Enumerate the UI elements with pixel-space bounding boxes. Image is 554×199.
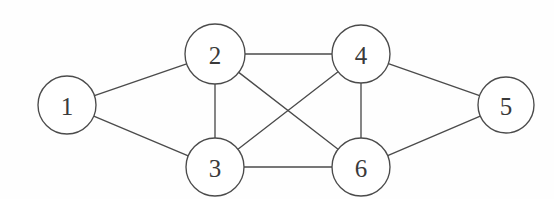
graph-edge-4-5: [388, 64, 479, 96]
graph-edge-1-3: [94, 116, 189, 156]
node-circle-1[interactable]: [38, 76, 96, 134]
node-circle-5[interactable]: [478, 77, 534, 133]
node-circle-2[interactable]: [185, 24, 245, 84]
graph-edge-5-6: [388, 116, 481, 156]
node-circle-6[interactable]: [332, 138, 390, 196]
graph-diagram: 123456: [0, 0, 554, 199]
node-circle-4[interactable]: [332, 25, 390, 83]
graph-edge-1-2: [94, 64, 186, 96]
graph-node-4[interactable]: 4: [332, 25, 390, 83]
graph-node-1[interactable]: 1: [38, 76, 96, 134]
graph-node-2[interactable]: 2: [185, 24, 245, 84]
graph-node-5[interactable]: 5: [478, 77, 534, 133]
graph-node-6[interactable]: 6: [332, 138, 390, 196]
graph-canvas: 123456: [0, 0, 554, 199]
edge-layer: [94, 54, 481, 167]
node-layer: 123456: [38, 24, 534, 196]
node-circle-3[interactable]: [186, 138, 244, 196]
graph-node-3[interactable]: 3: [186, 138, 244, 196]
